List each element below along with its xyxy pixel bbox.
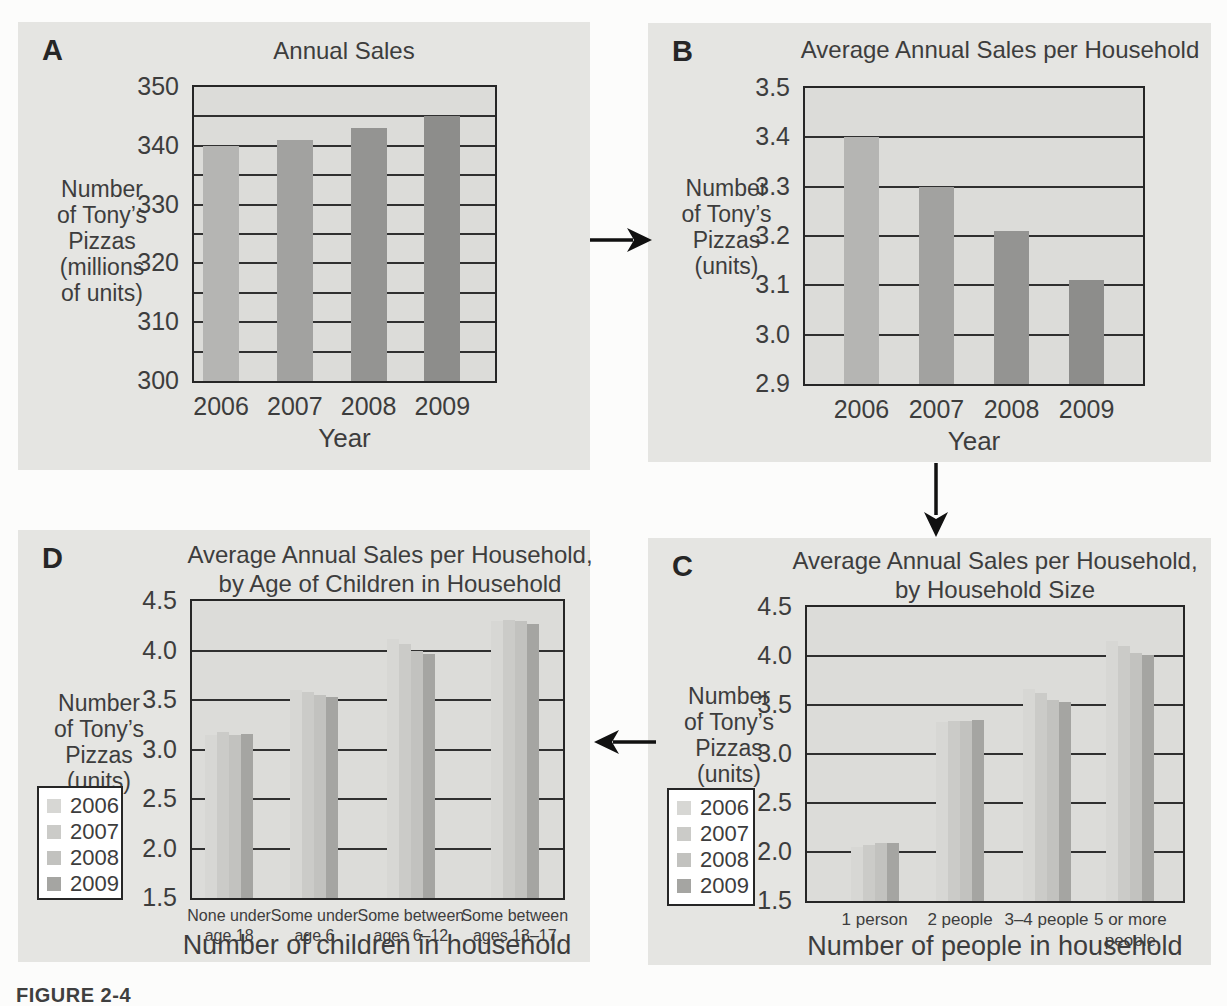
chart-title-c-line2: by Household Size	[745, 575, 1227, 604]
bar-2008	[515, 621, 527, 898]
bar-2007	[1035, 693, 1047, 901]
bar-2007	[302, 692, 314, 898]
panel-letter-c: C	[672, 550, 693, 583]
y-tick-label: 3.5	[102, 685, 177, 714]
y-tick-label: 3.3	[715, 172, 790, 201]
legend-swatch-2006	[47, 799, 61, 813]
legend-swatch-2008	[47, 851, 61, 865]
bar-2008	[1130, 653, 1142, 901]
bar-2009	[423, 654, 435, 898]
category-label: Some betweenages 13–17	[452, 906, 578, 946]
y-tick-label: 3.0	[715, 320, 790, 349]
category-label-line: ages 13–17	[452, 926, 578, 946]
legend-swatch-2006	[677, 801, 691, 815]
category-label-line: 2009	[397, 392, 487, 421]
x-axis-label-b: Year	[803, 426, 1145, 457]
bar-2007	[277, 140, 313, 381]
bar-2006	[1023, 689, 1035, 901]
panel-a: A Annual Sales Number of Tony’s Pizzas (…	[18, 22, 590, 470]
y-tick-label: 310	[104, 307, 179, 336]
bar-2006	[1106, 641, 1118, 901]
bar-2006	[491, 621, 503, 898]
plot-area-d	[190, 599, 565, 900]
bar-2007	[948, 721, 960, 901]
y-tick-label: 2.0	[717, 837, 792, 866]
panel-letter-b: B	[672, 35, 693, 68]
y-tick-label: 3.4	[715, 122, 790, 151]
bar-2009	[241, 734, 253, 898]
bar-2006	[387, 639, 399, 898]
y-tick-label: 3.0	[717, 739, 792, 768]
y-tick-label: 330	[104, 190, 179, 219]
bar-2008	[875, 843, 887, 901]
y-tick-label: 3.2	[715, 221, 790, 250]
plot-area-c	[805, 605, 1185, 903]
bar-2009	[887, 843, 899, 901]
y-tick-label: 340	[104, 131, 179, 160]
bar-2007	[399, 644, 411, 898]
category-label: 5 or morepeople	[1071, 909, 1189, 951]
plot-area-b	[803, 86, 1145, 386]
bar-2007	[863, 845, 875, 901]
chart-title-a-line1: Annual Sales	[94, 36, 594, 65]
bar-2009	[1142, 655, 1154, 901]
y-tick-label: 2.5	[102, 784, 177, 813]
bar-2008	[351, 128, 387, 381]
plot-area-a	[192, 85, 497, 383]
legend-swatch-2009	[677, 879, 691, 893]
y-tick-label: 4.0	[102, 636, 177, 665]
figure-caption: FIGURE 2-4	[16, 984, 131, 1006]
legend-swatch-2009	[47, 877, 61, 891]
bar-2009	[424, 116, 460, 381]
y-tick-label: 3.0	[102, 735, 177, 764]
y-axis-label-a-line5: of units)	[26, 280, 178, 306]
y-tick-label: 3.5	[715, 73, 790, 102]
bar-2008	[994, 231, 1029, 384]
panel-b: B Average Annual Sales per Household Num…	[648, 23, 1211, 462]
bar-2009	[1059, 702, 1071, 901]
category-label-line: people	[1071, 930, 1189, 951]
bar-2007	[919, 187, 954, 384]
bar-2009	[326, 697, 338, 898]
bar-2007	[503, 620, 515, 898]
bar-2009	[972, 720, 984, 901]
legend-swatch-2007	[47, 825, 61, 839]
bar-2008	[314, 695, 326, 898]
bar-2006	[290, 690, 302, 898]
y-tick-label: 4.5	[102, 586, 177, 615]
category-label: 2009	[397, 392, 487, 421]
panel-c: C Average Annual Sales per Household, by…	[648, 538, 1211, 965]
panel-letter-d: D	[42, 542, 63, 575]
category-label: 2009	[1042, 395, 1132, 424]
chart-title-b: Average Annual Sales per Household	[750, 35, 1227, 64]
panel-letter-a: A	[42, 34, 63, 67]
bar-2006	[936, 722, 948, 901]
bar-2008	[960, 721, 972, 901]
bar-2007	[217, 732, 229, 898]
legend-swatch-2007	[677, 827, 691, 841]
bar-2006	[844, 137, 879, 384]
bar-2009	[1069, 280, 1104, 384]
legend-swatch-2008	[677, 853, 691, 867]
category-label-line: 2009	[1042, 395, 1132, 424]
bar-2006	[205, 735, 217, 898]
chart-title-b-line1: Average Annual Sales per Household	[750, 35, 1227, 64]
chart-title-d-line1: Average Annual Sales per Household,	[140, 540, 640, 569]
bar-2006	[203, 146, 239, 381]
chart-title-c: Average Annual Sales per Household, by H…	[745, 546, 1227, 604]
bar-2009	[527, 624, 539, 898]
y-tick-label: 350	[104, 72, 179, 101]
y-tick-label: 300	[104, 366, 179, 395]
category-label-line: Some between	[452, 906, 578, 926]
x-axis-label-a: Year	[192, 423, 497, 454]
bar-2008	[229, 735, 241, 898]
arrow-b-to-c-icon	[921, 463, 951, 537]
y-tick-label: 3.5	[717, 690, 792, 719]
y-tick-label: 320	[104, 248, 179, 277]
chart-title-d: Average Annual Sales per Household, by A…	[140, 540, 640, 598]
bar-2008	[411, 651, 423, 899]
arrow-c-to-d-icon	[592, 727, 656, 757]
chart-title-d-line2: by Age of Children in Household	[140, 569, 640, 598]
bar-2008	[1047, 700, 1059, 901]
y-tick-label: 3.1	[715, 270, 790, 299]
